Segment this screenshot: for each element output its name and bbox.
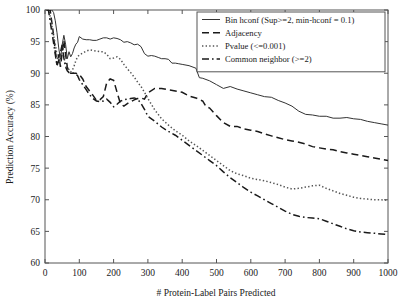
x-tick-label: 100 bbox=[72, 268, 87, 278]
figure-container: 0100200300400500600700800900100060657075… bbox=[0, 0, 406, 306]
x-tick-label: 1000 bbox=[379, 268, 398, 278]
chart-legend[interactable]: Bin hconf (Sup>=2, min-hconf = 0.1)Adjac… bbox=[197, 12, 385, 72]
line-chart: 0100200300400500600700800900100060657075… bbox=[0, 0, 406, 306]
y-axis-label: Prediction Accuracy (%) bbox=[5, 90, 16, 184]
legend-label-2[interactable]: Pvalue (<=0.001) bbox=[225, 41, 285, 51]
legend-label-0[interactable]: Bin hconf (Sup>=2, min-hconf = 0.1) bbox=[225, 15, 354, 25]
y-tick-label: 75 bbox=[31, 164, 41, 174]
x-tick-label: 600 bbox=[244, 268, 259, 278]
x-tick-label: 300 bbox=[141, 268, 156, 278]
x-tick-label: 900 bbox=[347, 268, 362, 278]
y-tick-label: 90 bbox=[31, 69, 41, 79]
y-tick-label: 85 bbox=[31, 100, 41, 110]
y-tick-label: 70 bbox=[31, 195, 41, 205]
y-tick-label: 95 bbox=[31, 37, 41, 47]
y-tick-label: 100 bbox=[26, 5, 41, 15]
x-tick-label: 0 bbox=[43, 268, 48, 278]
x-tick-label: 800 bbox=[312, 268, 327, 278]
x-tick-label: 500 bbox=[209, 268, 224, 278]
x-tick-label: 700 bbox=[278, 268, 293, 278]
x-tick-label: 400 bbox=[175, 268, 190, 278]
y-tick-label: 60 bbox=[31, 258, 41, 268]
legend-label-1[interactable]: Adjacency bbox=[225, 28, 262, 38]
y-tick-label: 80 bbox=[31, 132, 41, 142]
x-axis-label: # Protein-Label Pairs Predicted bbox=[157, 288, 276, 298]
legend-label-3[interactable]: Common neighbor (>=2) bbox=[225, 54, 312, 64]
x-tick-label: 200 bbox=[106, 268, 121, 278]
y-tick-label: 65 bbox=[31, 227, 41, 237]
